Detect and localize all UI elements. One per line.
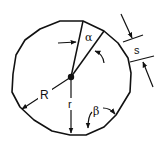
alpha-arrow-right — [95, 51, 104, 63]
s-label: s — [134, 44, 140, 56]
polygon-diagram: α R r β s — [0, 0, 165, 144]
r-label: r — [68, 98, 72, 110]
beta-arrow-left — [88, 112, 92, 128]
s-extension-top — [123, 35, 143, 42]
s-extension-bottom — [130, 56, 154, 62]
R-label: R — [40, 88, 49, 102]
s-arrow-top — [121, 14, 132, 38]
alpha-arrow-left — [58, 42, 76, 43]
beta-label: β — [93, 105, 99, 118]
beta-arrow-right — [103, 108, 115, 114]
s-arrow-bottom — [143, 62, 153, 87]
alpha-label: α — [85, 31, 93, 44]
